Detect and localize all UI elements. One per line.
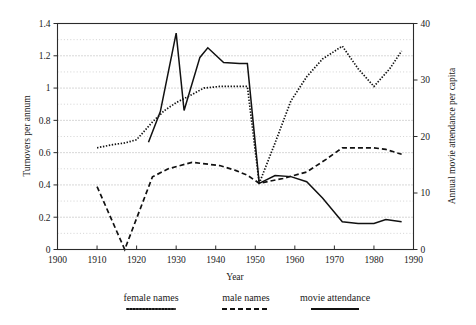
y-tick-label-left: 1 xyxy=(46,83,51,93)
y-axis-right-title: Annual movie attendance per capita xyxy=(447,67,457,204)
y-tick-label-left: 0.2 xyxy=(39,213,51,223)
y-tick-label-right: 30 xyxy=(421,75,431,85)
chart-figure: 00.20.40.60.811.21.4 010203040 190019101… xyxy=(0,0,476,325)
y-tick-label-left: 0.8 xyxy=(39,116,51,126)
chart-svg: 00.20.40.60.811.21.4 010203040 190019101… xyxy=(0,0,476,325)
legend-label-movie-attendance[interactable]: movie attendance xyxy=(300,292,371,303)
y-tick-label-right: 10 xyxy=(421,188,431,198)
y-tick-label-right: 40 xyxy=(421,19,431,29)
x-tick-label: 1960 xyxy=(285,255,304,265)
x-tick-label: 1930 xyxy=(167,255,186,265)
y-tick-label-left: 0.4 xyxy=(39,180,51,190)
x-tick-label: 1940 xyxy=(206,255,225,265)
y-tick-label-left: 1.2 xyxy=(39,51,51,61)
y-tick-label-left: 1.4 xyxy=(39,19,51,29)
x-tick-label: 1910 xyxy=(88,255,107,265)
x-axis-title: Year xyxy=(226,272,244,282)
legend-label-female-names[interactable]: female names xyxy=(123,292,178,303)
x-tick-label: 1980 xyxy=(364,255,383,265)
y-tick-label-right: 0 xyxy=(421,245,426,255)
x-tick-label: 1920 xyxy=(127,255,146,265)
x-tick-label: 1970 xyxy=(325,255,344,265)
legend-label-male-names[interactable]: male names xyxy=(222,292,270,303)
x-tick-label: 1900 xyxy=(48,255,67,265)
x-tick-label: 1950 xyxy=(246,255,265,265)
y-axis-left-title: Turnovers per annum xyxy=(22,95,32,177)
y-tick-label-left: 0 xyxy=(46,245,51,255)
y-tick-label-left: 0.6 xyxy=(39,148,51,158)
y-tick-label-right: 20 xyxy=(421,132,431,142)
x-tick-label: 1990 xyxy=(404,255,423,265)
